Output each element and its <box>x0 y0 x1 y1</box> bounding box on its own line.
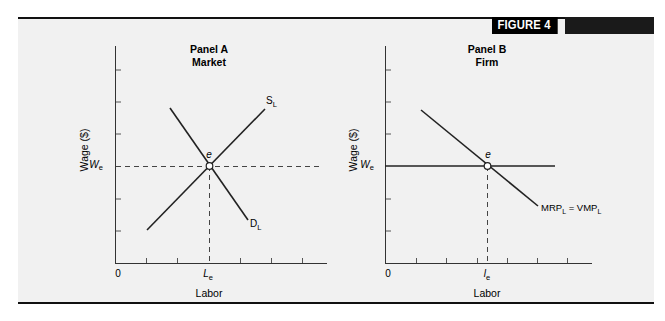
panel-a-title: Panel A <box>190 43 229 55</box>
panel-a-y-axis-label: Wage ($) <box>78 129 90 172</box>
panel-a-le-label: Le <box>203 268 213 282</box>
chart-canvas: Panel A Market e SL DL <box>0 0 665 321</box>
panel-b-we-label: We <box>360 159 374 172</box>
panel-b-y-axis-label: Wage ($) <box>347 129 359 172</box>
panel-b-title: Panel B <box>468 43 507 55</box>
panel-b: Panel B Firm e MRPL = VMPL <box>347 43 601 299</box>
panel-b-mrp-label: MRPL = VMPL <box>541 202 601 215</box>
panel-a-x-ticks <box>147 258 303 263</box>
panel-b-y-ticks <box>386 70 391 231</box>
panel-a-demand-label: DL <box>250 218 261 232</box>
panel-b-le-label: le <box>484 268 490 282</box>
panel-b-x-axis-label: Labor <box>474 287 501 299</box>
panel-a-equilibrium-label: e <box>206 149 212 160</box>
panel-b-equilibrium-point <box>484 163 491 170</box>
panel-b-mrp-curve <box>421 110 538 206</box>
panel-a-x-axis-label: Labor <box>196 287 223 299</box>
panel-a-we-label: We <box>89 159 103 172</box>
panel-b-equilibrium-label: e <box>485 149 491 160</box>
panel-a: Panel A Market e SL DL <box>78 43 327 299</box>
panel-a-equilibrium-point <box>206 163 213 170</box>
panel-a-supply-curve <box>147 109 265 230</box>
panel-a-supply-label: SL <box>266 95 277 109</box>
panel-b-subtitle: Firm <box>476 56 499 68</box>
panel-a-origin-label: 0 <box>115 268 121 279</box>
panel-a-y-ticks <box>116 70 121 231</box>
panel-a-subtitle: Market <box>192 56 226 68</box>
panel-b-origin-label: 0 <box>385 268 391 279</box>
panel-b-x-ticks <box>417 258 568 263</box>
